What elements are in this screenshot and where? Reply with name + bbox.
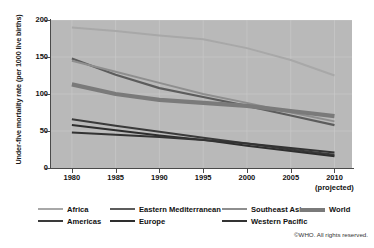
y-tick-mark: [45, 57, 50, 58]
plot-svg: [50, 20, 352, 168]
x-tick-label: 1990: [134, 173, 184, 182]
x-axis-line: [50, 168, 354, 169]
x-tick-label: 2000: [222, 173, 272, 182]
chart-legend: AfricaEastern MediterraneanSoutheast Asi…: [0, 204, 374, 230]
legend-label: Europe: [139, 216, 165, 227]
legend-label: World: [329, 204, 350, 215]
legend-swatch: [110, 208, 135, 210]
chart-container: Under-five mortality rate (per 1000 live…: [0, 0, 374, 248]
plot-area: [50, 20, 352, 168]
legend-label: Africa: [67, 204, 89, 215]
x-tick-label: 1995: [178, 173, 228, 182]
legend-swatch: [110, 220, 135, 222]
legend-swatch: [38, 220, 63, 222]
y-axis-title: Under-five mortality rate (per 1000 live…: [14, 6, 23, 174]
x-axis-tick-labels: 1980198519901995200020052010(projected): [0, 173, 374, 203]
legend-label: Americas: [67, 216, 101, 227]
y-tick-mark: [45, 94, 50, 95]
y-tick-mark: [45, 168, 50, 169]
legend-label: Western Pacific: [251, 216, 307, 227]
x-tick-label: 1980: [47, 173, 97, 182]
x-tick-sublabel: (projected): [309, 183, 359, 192]
copyright-notice: ©WHO. All rights reserved.: [294, 231, 368, 238]
y-tick-mark: [45, 131, 50, 132]
legend-swatch: [222, 208, 247, 210]
y-axis-line: [50, 19, 51, 169]
legend-label: Southeast Asia: [251, 204, 306, 215]
legend-label: Eastern Mediterranean: [139, 204, 221, 215]
y-tick-mark: [45, 20, 50, 21]
legend-swatch: [300, 208, 325, 212]
x-tick-label: 2010(projected): [309, 173, 359, 192]
legend-swatch: [222, 220, 247, 222]
legend-swatch: [38, 208, 63, 210]
x-tick-label: 2005: [266, 173, 316, 182]
x-tick-label: 1985: [91, 173, 141, 182]
